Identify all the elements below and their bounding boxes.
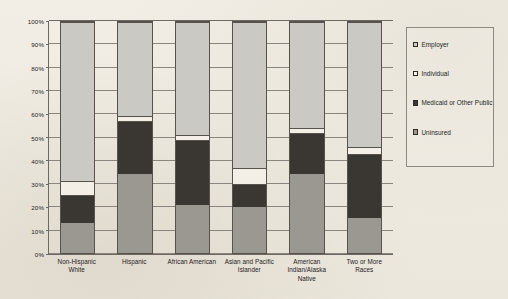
y-axis-tick-label: 70% <box>31 87 49 94</box>
stacked-bar[interactable] <box>232 21 267 254</box>
y-axis-tick-label: 60% <box>31 111 49 118</box>
bar-segment[interactable] <box>233 22 266 168</box>
bar-segment[interactable] <box>118 22 151 116</box>
y-axis-tick-label: 100% <box>28 18 49 25</box>
bar-segment[interactable] <box>233 168 266 184</box>
bar-segment[interactable] <box>61 22 94 181</box>
bar-segment[interactable] <box>348 147 381 154</box>
bar-segment[interactable] <box>233 184 266 207</box>
bar-segment[interactable] <box>118 121 151 174</box>
stacked-bar[interactable] <box>347 21 382 254</box>
bar-segment[interactable] <box>290 133 323 175</box>
bar-segment[interactable] <box>233 207 266 253</box>
stacked-bar[interactable] <box>289 21 324 254</box>
bar-segment[interactable] <box>348 154 381 219</box>
y-axis-tick-label: 50% <box>31 134 49 141</box>
bar-group <box>49 21 393 254</box>
legend-item[interactable]: Medicaid or Other Public <box>413 99 493 107</box>
plot-frame: 0%10%20%30%40%50%60%70%80%90%100% <box>48 21 393 255</box>
bar-segment[interactable] <box>61 195 94 223</box>
stacked-bar[interactable] <box>60 21 95 254</box>
legend-item-label: Uninsured <box>421 129 451 137</box>
legend-item-label: Employer <box>421 41 448 49</box>
bar-segment[interactable] <box>61 223 94 253</box>
x-axis-category-label: AmericanIndian/AlaskaNative <box>279 258 334 283</box>
bar-column[interactable] <box>337 21 392 254</box>
x-axis-category-label: Non-HispanicWhite <box>49 258 104 283</box>
x-axis-category-label: Hispanic <box>107 258 162 283</box>
bar-column[interactable] <box>222 21 277 254</box>
legend-item-label: Medicaid or Other Public <box>421 99 492 107</box>
y-axis-tick-label: 80% <box>31 64 49 71</box>
legend-swatch-icon <box>413 42 418 47</box>
y-axis-tick-label: 10% <box>31 227 49 234</box>
y-axis-tick-label: 30% <box>31 181 49 188</box>
bar-column[interactable] <box>165 21 220 254</box>
bar-column[interactable] <box>50 21 105 254</box>
bar-segment[interactable] <box>118 174 151 253</box>
x-axis-category-label: African American <box>164 258 219 283</box>
bar-segment[interactable] <box>290 22 323 128</box>
legend-swatch-icon <box>413 129 418 134</box>
bar-column[interactable] <box>279 21 334 254</box>
x-axis-category-label: Two or MoreRaces <box>337 258 392 283</box>
x-axis-labels: Non-HispanicWhiteHispanicAfrican America… <box>48 258 393 283</box>
bar-segment[interactable] <box>348 22 381 147</box>
legend-item[interactable]: Individual <box>413 70 493 78</box>
legend-item-label: Individual <box>421 70 449 78</box>
legend-swatch-icon <box>413 71 418 76</box>
legend-item[interactable]: Uninsured <box>413 129 493 137</box>
chart-plot-area: 0%10%20%30%40%50%60%70%80%90%100% <box>48 21 393 255</box>
y-axis-tick-label: 20% <box>31 204 49 211</box>
bar-segment[interactable] <box>176 205 209 254</box>
bar-segment[interactable] <box>348 218 381 253</box>
chart-page: 0%10%20%30%40%50%60%70%80%90%100% Non-Hi… <box>0 0 508 299</box>
stacked-bar[interactable] <box>117 21 152 254</box>
legend-swatch-icon <box>413 100 418 105</box>
y-axis-tick-label: 90% <box>31 41 49 48</box>
chart-legend: EmployerIndividualMedicaid or Other Publ… <box>406 27 494 167</box>
legend-item[interactable]: Employer <box>413 41 493 49</box>
bar-segment[interactable] <box>61 181 94 195</box>
bar-segment[interactable] <box>290 174 323 253</box>
y-axis-tick-label: 0% <box>35 251 49 258</box>
y-axis-tick-label: 40% <box>31 157 49 164</box>
bar-segment[interactable] <box>176 140 209 205</box>
bar-segment[interactable] <box>176 22 209 135</box>
bar-column[interactable] <box>107 21 162 254</box>
x-axis-category-label: Asian and PacificIslander <box>222 258 277 283</box>
stacked-bar[interactable] <box>175 21 210 254</box>
